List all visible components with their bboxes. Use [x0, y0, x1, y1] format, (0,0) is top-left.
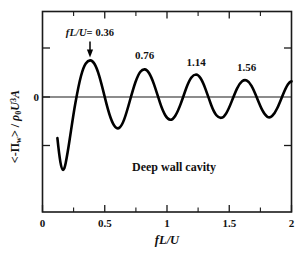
xaxis-title: fL/U — [155, 234, 179, 247]
plot-frame — [43, 12, 292, 213]
first-peak-callout-value: = 0.36 — [87, 27, 115, 38]
xaxis-top-ticks — [74, 12, 261, 19]
first-peak-callout-variable: fL/U — [66, 27, 87, 38]
xtick-label-0: 0 — [40, 218, 46, 229]
xtick-label-1: 0.5 — [98, 218, 112, 229]
ytick-label-zero: 0 — [26, 92, 39, 103]
first-peak-arrow — [87, 42, 93, 58]
chart-canvas — [0, 0, 303, 253]
third-peak-label: 1.14 — [186, 57, 205, 68]
xtick-label-4: 2 — [289, 218, 295, 229]
xtick-label-2: 1 — [164, 218, 170, 229]
first-peak-callout: fL/U= 0.36 — [66, 28, 114, 39]
xtick-label-3: 1.5 — [222, 218, 236, 229]
xaxis-major-ticks — [43, 205, 292, 212]
case-note: Deep wall cavity — [132, 161, 216, 173]
figure-container: fL/U= 0.36 0.76 1.14 1.56 Deep wall cavi… — [0, 0, 303, 253]
yaxis-left-ticks — [43, 48, 51, 146]
second-peak-label: 0.76 — [135, 50, 154, 61]
data-curve-acoustic-power — [57, 60, 291, 169]
fourth-peak-label: 1.56 — [237, 62, 256, 73]
